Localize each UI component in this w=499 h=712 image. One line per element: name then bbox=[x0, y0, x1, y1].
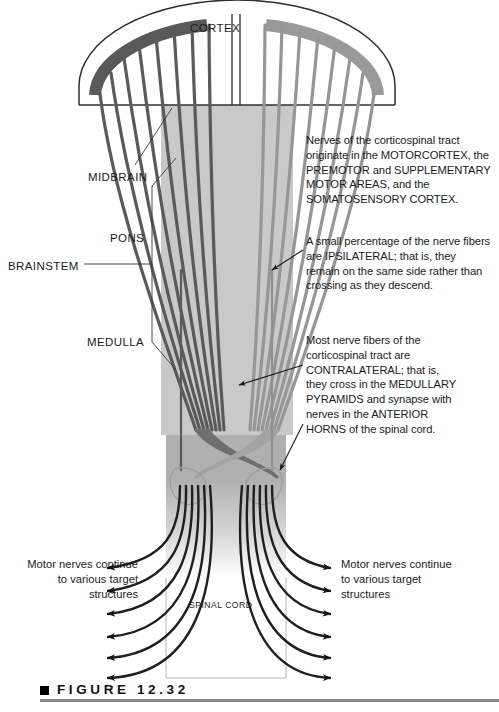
label-brainstem: BRAINSTEM bbox=[8, 259, 79, 274]
label-medulla: MEDULLA bbox=[87, 335, 144, 350]
label-spinal-cord: SPINAL CORD bbox=[189, 600, 252, 611]
annotation-ipsilateral: A small percentage of the nerve fibers a… bbox=[306, 234, 492, 293]
label-pons: PONS bbox=[110, 231, 144, 246]
annotation-contralateral: Most nerve fibers of the corticospinal t… bbox=[306, 333, 456, 436]
caption-rule bbox=[40, 699, 499, 702]
motor-nerves-note-left: Motor nerves continue to various target … bbox=[20, 557, 138, 602]
figure-corticospinal-tract: CORTEX MIDBRAIN PONS MEDULLA BRAINSTEM S… bbox=[0, 0, 499, 712]
label-cortex: CORTEX bbox=[190, 21, 240, 36]
caption-bullet-square bbox=[40, 686, 49, 695]
annotation-tract-origin: Nerves of the corticospinal tract origin… bbox=[306, 133, 492, 207]
label-midbrain: MIDBRAIN bbox=[88, 170, 147, 185]
figure-caption: FIGURE 12.32 bbox=[57, 682, 189, 697]
motor-nerves-note-right: Motor nerves continue to various target … bbox=[341, 557, 459, 602]
